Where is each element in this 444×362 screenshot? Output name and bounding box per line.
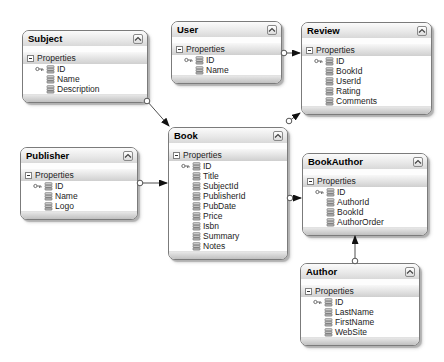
collapse-minus-icon[interactable] [176,46,183,53]
collapse-minus-icon[interactable] [305,288,312,295]
property-row[interactable]: ID [303,187,427,197]
primary-key-icon [181,242,190,251]
collapse-minus-icon[interactable] [25,172,32,179]
entity-title: Review [307,25,340,36]
chevron-up-icon[interactable] [267,25,277,35]
association-author-bookauthor[interactable] [352,236,358,264]
association-line[interactable] [147,101,169,126]
property-row[interactable]: LastName [301,307,419,317]
property-row[interactable]: BookId [303,207,427,217]
property-row[interactable]: Notes [169,241,287,251]
chevron-up-icon[interactable] [273,131,283,141]
association-subject-book[interactable] [144,98,169,126]
entity-title: Author [306,266,337,277]
primary-key-icon [35,85,44,94]
primary-key-icon [181,162,190,171]
properties-section-header: Properties [23,52,147,64]
property-row[interactable]: UserId [302,76,431,86]
designer-canvas: Subject Properties ID [0,0,444,362]
property-name: PublisherId [203,191,246,201]
entity-footer [21,211,137,219]
property-name: ID [336,56,345,66]
property-row[interactable]: ID [172,55,281,65]
entity-subject[interactable]: Subject Properties ID [22,30,148,103]
property-row[interactable]: Logo [21,201,137,211]
association-line[interactable] [289,113,300,121]
column-icon [192,172,201,181]
property-name: ID [57,64,66,74]
property-row[interactable]: Rating [302,86,431,96]
chevron-up-icon[interactable] [417,26,427,36]
property-row[interactable]: Name [23,74,147,84]
property-row[interactable]: ID [302,56,431,66]
chevron-up-icon[interactable] [133,34,143,44]
property-row[interactable]: SubjectId [169,181,287,191]
primary-key-icon [315,198,324,207]
collapse-minus-icon[interactable] [173,152,180,159]
chevron-up-icon[interactable] [405,267,415,277]
entity-author[interactable]: Author Properties ID [300,263,420,346]
entity-title: Publisher [26,150,69,161]
entity-title-bar: Review [302,23,431,38]
property-row[interactable]: AuthorId [303,197,427,207]
property-row[interactable]: Title [169,171,287,181]
primary-key-icon [35,65,44,74]
property-name: Summary [203,231,239,241]
column-icon [324,308,333,317]
property-row[interactable]: BookId [302,66,431,76]
property-row[interactable]: ID [21,181,137,191]
property-row[interactable]: PubDate [169,201,287,211]
properties-label: Properties [315,286,354,296]
property-row[interactable]: Comments [302,96,431,106]
association-book-bookauthor[interactable] [287,195,301,201]
entity-bookauthor[interactable]: BookAuthor Properties [302,153,428,236]
chevron-up-icon[interactable] [413,157,423,167]
association-book-review[interactable] [286,113,300,124]
chevron-up-icon [418,28,426,34]
property-row[interactable]: WebSite [301,327,419,337]
properties-section-header: Properties [302,44,431,56]
property-name: BookId [336,66,362,76]
collapse-minus-icon[interactable] [306,47,313,54]
primary-key-icon [184,66,193,75]
property-row[interactable]: FirstName [301,317,419,327]
entity-book[interactable]: Book Properties ID [168,127,288,260]
column-icon [195,66,204,75]
entity-user[interactable]: User Properties ID [171,21,282,84]
properties-label: Properties [317,176,356,186]
property-row[interactable]: Summary [169,231,287,241]
column-icon [44,202,53,211]
column-icon [326,218,335,227]
entity-publisher[interactable]: Publisher Properties I [20,147,138,220]
property-name: Isbn [203,221,219,231]
chevron-up-icon [274,133,282,139]
primary-key-icon [314,77,323,86]
chevron-up-icon[interactable] [123,151,133,161]
collapse-minus-icon[interactable] [307,178,314,185]
association-user-review[interactable] [281,50,300,56]
property-row[interactable]: ID [23,64,147,74]
association-publisher-book[interactable] [137,180,167,186]
column-icon [325,87,334,96]
property-row[interactable]: Isbn [169,221,287,231]
property-name: Notes [203,241,225,251]
property-name: AuthorOrder [337,217,384,227]
property-row[interactable]: ID [169,161,287,171]
entity-title: Book [174,130,198,141]
property-row[interactable]: PublisherId [169,191,287,201]
property-row[interactable]: AuthorOrder [303,217,427,227]
collapse-minus-icon[interactable] [27,55,34,62]
column-icon [46,65,55,74]
property-row[interactable]: Name [172,65,281,75]
properties-section-header: Properties [21,169,137,181]
property-name: FirstName [335,317,374,327]
property-row[interactable]: ID [301,297,419,307]
entity-review[interactable]: Review Properties ID [301,22,432,115]
column-icon [326,188,335,197]
property-row[interactable]: Description [23,84,147,94]
property-row[interactable]: Name [21,191,137,201]
column-icon [44,182,53,191]
property-row[interactable]: Price [169,211,287,221]
property-name: Comments [336,96,377,106]
property-name: Name [206,65,229,75]
